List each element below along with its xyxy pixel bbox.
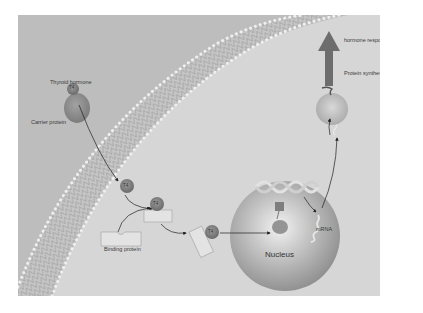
ribosome [316, 93, 348, 125]
t4-tag-transport: T4 [208, 230, 213, 235]
response-arrow-shaft [325, 48, 333, 86]
label-hormone-response: hormone response [344, 38, 380, 44]
label-carrier-protein: Carrier protein [31, 120, 66, 126]
label-binding-protein: Binding protein [104, 247, 141, 253]
t4-tag-free: T4 [123, 184, 128, 189]
t4-tag-binding: T4 [153, 202, 158, 207]
label-protein-synthesis: Protein synthesis [344, 71, 380, 77]
label-nucleus: Nucleus [265, 251, 294, 259]
nucleus [230, 181, 340, 291]
receptor-complex [272, 220, 288, 234]
diagram-canvas [18, 15, 380, 296]
label-mrna: mRNA [316, 227, 332, 233]
binding-complex [144, 210, 172, 222]
carrier-protein [64, 93, 90, 123]
t4-tag-carrier: T4 [69, 86, 74, 91]
diagram-frame: Thyroid hormone Carrier protein Binding … [18, 15, 380, 296]
receptor [275, 202, 284, 211]
